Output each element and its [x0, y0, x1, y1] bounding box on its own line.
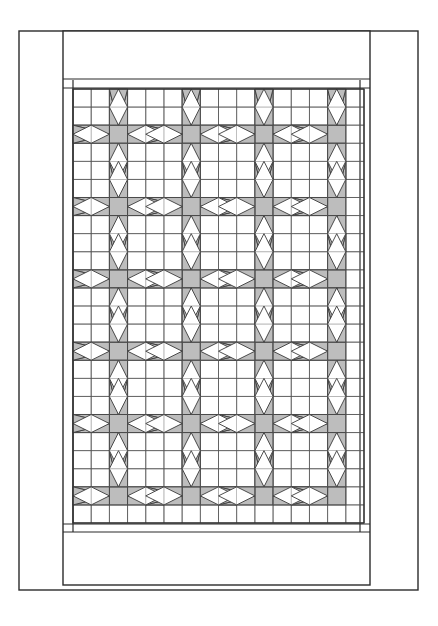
- star-center-square: [109, 270, 127, 288]
- star-center-square: [328, 197, 346, 215]
- star-center-square: [109, 487, 127, 505]
- star-center-square: [328, 270, 346, 288]
- star-center-square: [328, 342, 346, 360]
- star-center-square: [109, 125, 127, 143]
- star-center-square: [182, 342, 200, 360]
- star-center-square: [255, 414, 273, 432]
- star-center-square: [182, 197, 200, 215]
- star-center-square: [182, 414, 200, 432]
- star-center-square: [328, 414, 346, 432]
- star-center-square: [255, 197, 273, 215]
- star-center-square: [255, 125, 273, 143]
- star-center-square: [328, 487, 346, 505]
- star-center-square: [255, 487, 273, 505]
- star-center-square: [328, 125, 346, 143]
- star-center-square: [255, 270, 273, 288]
- star-center-square: [182, 125, 200, 143]
- star-center-square: [109, 342, 127, 360]
- star-center-square: [182, 270, 200, 288]
- star-center-square: [109, 197, 127, 215]
- quilt-diagram-stage: [0, 0, 438, 626]
- star-center-square: [109, 414, 127, 432]
- quilt-diagram-svg: [0, 0, 438, 626]
- star-center-square: [182, 487, 200, 505]
- star-center-square: [255, 342, 273, 360]
